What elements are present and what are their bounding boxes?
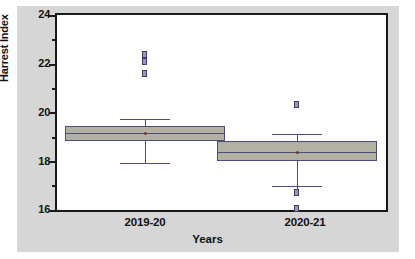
y-tick-label-22: 22 — [28, 57, 50, 69]
y-axis-tick-24 — [49, 15, 57, 17]
outlier-point — [294, 205, 299, 212]
y-axis-tick-22 — [49, 64, 57, 66]
y-axis-title: Harrest Index — [0, 0, 10, 82]
y-tick-label-18: 18 — [28, 155, 50, 167]
y-tick-label-20: 20 — [28, 106, 50, 118]
y-axis-tick-18 — [49, 161, 57, 163]
x-tick-label-2019-20: 2019-20 — [100, 216, 190, 228]
x-axis-title: Years — [0, 233, 415, 245]
whisker-lower-cap-2020-21 — [272, 186, 322, 187]
outlier-point — [294, 101, 299, 108]
outlier-point — [294, 189, 299, 196]
y-tick-label-16: 16 — [28, 203, 50, 215]
chart-figure: Harrest Index 24 22 20 18 16 2019-20 202… — [0, 0, 415, 259]
y-axis-tick-16 — [49, 210, 57, 212]
y-axis-tick-20 — [49, 112, 57, 114]
mean-marker-2020-21 — [296, 151, 299, 154]
y-tick-label-24: 24 — [28, 8, 50, 20]
whisker-lower-line-2020-21 — [297, 161, 298, 189]
boxplot-2020-21 — [57, 15, 386, 210]
x-tick-label-2020-21: 2020-21 — [260, 216, 350, 228]
plot-area — [55, 13, 388, 212]
whisker-upper-cap-2020-21 — [272, 134, 322, 135]
